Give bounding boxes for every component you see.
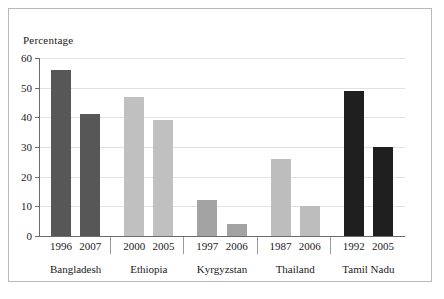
y-tick-label: 20: [21, 171, 32, 183]
y-tick-mark: [35, 177, 40, 178]
y-tick-label: 0: [27, 230, 33, 242]
y-tick-mark: [35, 236, 40, 237]
bar: [300, 206, 320, 236]
y-tick-mark: [35, 88, 40, 89]
gridline: [39, 58, 405, 59]
x-tick-label-year: 2006: [287, 240, 333, 252]
x-group-label-country: Tamil Nadu: [320, 263, 416, 275]
y-tick-label: 60: [21, 52, 32, 64]
bar: [227, 224, 247, 236]
x-tick-label-year: 2005: [140, 240, 186, 252]
y-tick-label: 10: [21, 200, 32, 212]
chart-frame: Percentage 010203040506019962007Banglade…: [8, 8, 432, 282]
x-tick-label-year: 2006: [214, 240, 260, 252]
y-axis-title: Percentage: [23, 34, 73, 46]
bar: [373, 147, 393, 236]
x-tick-label-year: 2007: [67, 240, 113, 252]
y-tick-mark: [35, 206, 40, 207]
gridline: [39, 88, 405, 89]
x-tick-label-year: 2005: [360, 240, 406, 252]
x-axis-line: [39, 236, 405, 237]
bar: [80, 114, 100, 236]
y-tick-mark: [35, 58, 40, 59]
bar: [153, 120, 173, 236]
bar: [124, 97, 144, 236]
y-tick-mark: [35, 147, 40, 148]
y-tick-mark: [35, 117, 40, 118]
y-tick-label: 50: [21, 82, 32, 94]
bar: [271, 159, 291, 236]
y-tick-label: 30: [21, 141, 32, 153]
bar: [51, 70, 71, 236]
plot-area: 010203040506019962007Bangladesh20002005E…: [39, 58, 405, 236]
bar: [197, 200, 217, 236]
bar: [344, 91, 364, 236]
y-tick-label: 40: [21, 111, 32, 123]
